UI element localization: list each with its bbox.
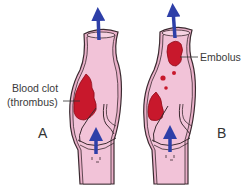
vein-a-top-opening <box>87 32 115 38</box>
arrow-up-icon <box>98 14 99 40</box>
thrombus-label-line1: Blood clot <box>12 83 58 94</box>
vein-b <box>144 10 198 184</box>
embolus-label: Embolus <box>200 52 241 63</box>
vein-diagram <box>0 0 250 190</box>
thrombus-label-line2: (thrombus) <box>7 97 58 108</box>
clot-fragment <box>172 71 176 75</box>
clot-fragment <box>160 75 165 80</box>
clot-fragment <box>164 86 168 90</box>
vein-a <box>63 14 121 184</box>
arrow-up-icon <box>173 10 175 38</box>
panel-label-b: B <box>217 126 226 140</box>
panel-label-a: A <box>38 126 47 140</box>
embolus-clot <box>167 41 183 66</box>
